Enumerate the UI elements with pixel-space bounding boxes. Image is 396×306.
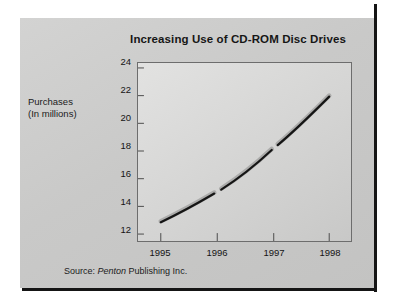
y-tick-label-22: 22: [109, 85, 131, 95]
chart-screenshot: Increasing Use of CD-ROM Disc Drives Pur…: [0, 0, 396, 306]
frame-shadow-bottom: [22, 288, 376, 291]
y-axis-caption-line1: Purchases: [28, 96, 114, 108]
x-tick-label-1995: 1995: [143, 248, 177, 258]
x-tick-label-1996: 1996: [200, 248, 234, 258]
y-tick-label-16: 16: [109, 169, 131, 179]
y-tick-label-18: 18: [109, 141, 131, 151]
y-tick-label-12: 12: [109, 225, 131, 235]
y-tick-label-14: 14: [109, 197, 131, 207]
data-series-cd-rom-purchases: [161, 96, 329, 223]
source-note: Source: Penton Publishing Inc.: [64, 266, 187, 276]
data-line-highlight: [161, 96, 329, 222]
plot-area: [137, 62, 352, 242]
x-tick-label-1997: 1997: [257, 248, 291, 258]
y-axis-caption: Purchases (In millions): [28, 96, 114, 120]
source-prefix: Source:: [64, 266, 95, 276]
x-axis-ticks: [161, 233, 329, 241]
y-axis-ticks: [138, 68, 144, 234]
y-axis-caption-line2: (In millions): [28, 108, 114, 120]
data-line: [161, 97, 329, 223]
source-suffix: Publishing Inc.: [129, 266, 188, 276]
source-publisher-emphasis: Penton: [98, 266, 127, 276]
chart-title: Increasing Use of CD-ROM Disc Drives: [102, 33, 374, 46]
figure-panel: Increasing Use of CD-ROM Disc Drives Pur…: [20, 18, 374, 288]
x-tick-label-1998: 1998: [313, 248, 347, 258]
plot-canvas: [138, 63, 351, 241]
y-tick-label-24: 24: [109, 57, 131, 67]
y-tick-label-20: 20: [109, 113, 131, 123]
frame-shadow-right: [374, 4, 377, 292]
